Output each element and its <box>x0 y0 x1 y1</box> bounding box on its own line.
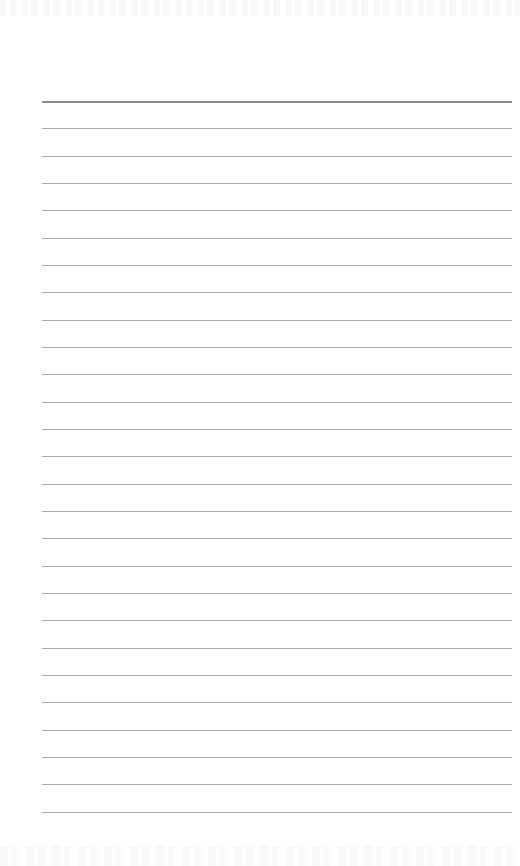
header-rule-line <box>42 101 512 103</box>
rule-line <box>42 265 512 266</box>
rule-line <box>42 620 512 621</box>
rule-line <box>42 374 512 375</box>
rule-line <box>42 812 512 813</box>
rule-line <box>42 538 512 539</box>
rule-line <box>42 347 512 348</box>
scan-bleed-through-top <box>0 0 520 16</box>
rule-line <box>42 156 512 157</box>
rule-line <box>42 456 512 457</box>
rule-line <box>42 183 512 184</box>
rule-line <box>42 320 512 321</box>
rule-line <box>42 784 512 785</box>
rule-line <box>42 210 512 211</box>
rule-line <box>42 128 512 129</box>
rule-line <box>42 238 512 239</box>
rule-line <box>42 484 512 485</box>
rule-line <box>42 402 512 403</box>
rule-line <box>42 566 512 567</box>
rule-line <box>42 757 512 758</box>
rule-line <box>42 702 512 703</box>
rule-line <box>42 593 512 594</box>
rule-line <box>42 675 512 676</box>
lined-paper-page <box>0 0 520 866</box>
rule-line <box>42 292 512 293</box>
rule-line <box>42 648 512 649</box>
rule-line <box>42 730 512 731</box>
rule-line <box>42 511 512 512</box>
scan-bleed-through-bottom <box>0 846 520 866</box>
rule-line <box>42 429 512 430</box>
